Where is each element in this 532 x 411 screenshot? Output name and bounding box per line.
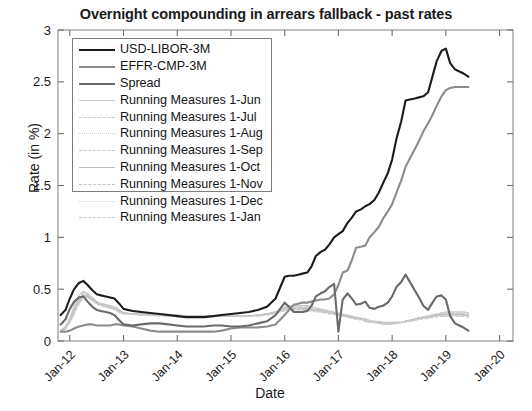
legend-label: Running Measures 1-Jan [117,210,261,224]
legend-line-icon [77,194,117,208]
y-tick-label: 3 [44,23,51,38]
legend-line-icon [77,110,117,124]
legend-item[interactable]: Running Measures 1-Nov [73,175,271,192]
legend-item[interactable]: Running Measures 1-Sep [73,142,271,159]
x-tick-label: Jan-18 [364,347,401,384]
legend-label: Running Measures 1-Nov [117,177,263,191]
x-tick-label: Jan-15 [202,347,239,384]
legend-label: USD-LIBOR-3M [117,42,210,56]
y-tick-label: 2 [44,126,51,141]
x-tick-label: Jan-14 [149,347,186,384]
x-axis-label: Date [150,385,390,401]
legend-label: Running Measures 1-Jun [117,93,261,107]
legend-item[interactable]: EFFR-CMP-3M [73,58,271,75]
series-line [61,275,469,332]
legend-item[interactable]: Running Measures 1-Jun [73,91,271,108]
legend-line-icon [77,143,117,157]
legend-line-icon [77,210,117,224]
legend-item[interactable]: Running Measures 1-Oct [73,159,271,176]
x-tick-label: Jan-19 [417,347,454,384]
legend-label: Running Measures 1-Sep [117,143,263,157]
legend-line-icon [77,42,117,56]
x-tick-label: Jan-16 [256,347,293,384]
x-tick-label: Jan-12 [41,347,78,384]
legend-line-icon [77,160,117,174]
y-tick-label: 0.5 [33,282,51,297]
legend-label: Running Measures 1-Dec [117,194,263,208]
legend-label: Spread [117,76,161,90]
x-tick-label: Jan-17 [310,347,347,384]
chart-figure: Overnight compounding in arrears fallbac… [0,0,532,411]
legend-item[interactable]: USD-LIBOR-3M [73,41,271,58]
legend-label: EFFR-CMP-3M [117,59,207,73]
x-tick-label: Jan-20 [471,347,508,384]
legend-line-icon [77,93,117,107]
y-tick-label: 0 [44,334,51,349]
legend-line-icon [77,126,117,140]
legend-label: Running Measures 1-Oct [117,160,260,174]
y-axis-label: Rate (in %) [26,98,42,218]
legend-line-icon [77,76,117,90]
legend-label: Running Measures 1-Jul [117,110,257,124]
legend-label: Running Measures 1-Aug [117,126,263,140]
legend-item[interactable]: Spread [73,75,271,92]
chart-legend: USD-LIBOR-3MEFFR-CMP-3MSpreadRunning Mea… [72,38,272,192]
legend-item[interactable]: Running Measures 1-Dec [73,192,271,209]
x-tick-label: Jan-13 [95,347,132,384]
y-tick-label: 2.5 [33,74,51,89]
legend-line-icon [77,177,117,191]
legend-line-icon [77,59,117,73]
legend-item[interactable]: Running Measures 1-Jan [73,209,271,226]
legend-item[interactable]: Running Measures 1-Aug [73,125,271,142]
y-tick-label: 1 [44,230,51,245]
legend-item[interactable]: Running Measures 1-Jul [73,108,271,125]
